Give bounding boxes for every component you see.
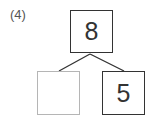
missing-part-box[interactable] <box>37 71 80 115</box>
whole-number-box: 8 <box>70 10 113 53</box>
known-part-box: 5 <box>102 71 145 115</box>
